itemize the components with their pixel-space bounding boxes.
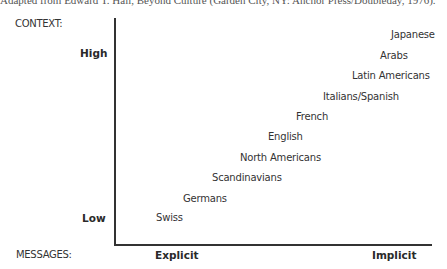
- messages-axis-title: MESSAGES:: [16, 249, 72, 260]
- y-axis-line: [114, 18, 116, 245]
- culture-label-north-americans: North Americans: [240, 152, 321, 164]
- x-tick-explicit: Explicit: [155, 249, 199, 261]
- culture-label-japanese: Japanese: [391, 29, 435, 41]
- culture-label-scandinavians: Scandinavians: [212, 172, 282, 184]
- culture-label-arabs: Arabs: [380, 50, 408, 62]
- culture-label-latin-americans: Latin Americans: [352, 70, 430, 82]
- culture-label-swiss: Swiss: [156, 212, 183, 224]
- culture-label-english: English: [268, 131, 303, 143]
- culture-label-germans: Germans: [183, 193, 227, 205]
- context-axis-title: CONTEXT:: [15, 18, 62, 29]
- source-citation: Adapted from Edward T. Hall, Beyond Cult…: [0, 0, 436, 6]
- y-tick-low: Low: [82, 212, 106, 224]
- culture-label-italians-spanish: Italians/Spanish: [323, 91, 399, 103]
- y-tick-high: High: [80, 47, 107, 59]
- x-axis-line: [114, 244, 432, 246]
- culture-label-french: French: [296, 111, 328, 123]
- x-tick-implicit: Implicit: [372, 249, 416, 261]
